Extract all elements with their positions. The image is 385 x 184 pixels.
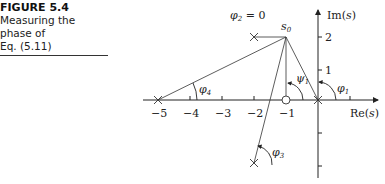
phi4-label: φ4 xyxy=(199,83,211,97)
tick-real-minus4: −4 xyxy=(183,107,199,120)
phi3-label: φ3 xyxy=(272,146,285,160)
phi1-arc xyxy=(319,82,336,100)
real-axis xyxy=(143,96,378,100)
tick-real-minus5: −5 xyxy=(151,107,167,120)
real-axis-label: Re(s) xyxy=(350,107,379,120)
imag-axis-label: Im(s) xyxy=(327,9,356,22)
imaginary-axis xyxy=(318,10,322,178)
s0-label: s0 xyxy=(281,20,292,34)
phi3-arc xyxy=(258,146,272,165)
zero-icon xyxy=(282,96,290,104)
tick-real-minus2: −2 xyxy=(247,107,263,120)
pole-zero-diagram: −5 −4 −3 −2 −1 2 1 Im(s) Re(s) φ2 = 0 s0… xyxy=(0,0,385,184)
tick-real-minus1: −1 xyxy=(279,107,295,120)
psi1-arc xyxy=(288,83,303,100)
phi2-label: φ2 = 0 xyxy=(230,9,265,23)
psi1-label: ψ1 xyxy=(296,72,309,86)
tick-imag-1: 1 xyxy=(325,64,332,77)
vector-from-pole-minus5 xyxy=(158,37,286,100)
tick-real-minus3: −3 xyxy=(215,107,231,120)
phi1-label: φ1 xyxy=(337,82,349,96)
vector-from-origin-pole xyxy=(286,37,318,100)
phi4-arc xyxy=(193,83,197,100)
tick-imag-2: 2 xyxy=(325,31,332,44)
pole-phi3-icon xyxy=(250,159,258,167)
